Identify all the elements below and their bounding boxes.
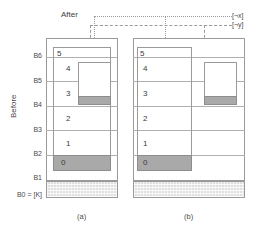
connector-neg-x-horizontal xyxy=(94,16,232,17)
figure-canvas: After [¬x] [¬y] Before B6 B5 B4 B3 B2 B1… xyxy=(0,0,263,237)
neg-y-label: [¬y] xyxy=(232,21,243,28)
panel-a-base-b0 xyxy=(46,181,118,198)
caption-b: (b) xyxy=(184,213,193,221)
connector-neg-y-horizontal xyxy=(90,25,232,26)
row-label-b5: B5 xyxy=(24,77,42,84)
neg-x-label: [¬x] xyxy=(232,12,243,19)
panel-a-block-label-2: 2 xyxy=(66,115,70,123)
panel-b-block-label-4: 4 xyxy=(143,65,147,73)
panel-a-block-label-1: 1 xyxy=(66,140,70,148)
panel-b-block-label-5: 5 xyxy=(140,50,144,58)
row-label-b2: B2 xyxy=(24,150,42,157)
panel-b-base-b0 xyxy=(133,181,245,198)
panel-a-block-label-4: 4 xyxy=(66,65,70,73)
row-label-b3: B3 xyxy=(24,126,42,133)
panel-b-block-label-0: 0 xyxy=(143,159,147,167)
panel-a-block-label-5: 5 xyxy=(57,50,61,58)
after-label: After xyxy=(61,11,78,19)
panel-b-floating-fill xyxy=(204,96,237,105)
row-label-b1: B1 xyxy=(24,174,42,181)
panel-a-block-label-0: 0 xyxy=(61,159,65,167)
panel-b-block-label-3: 3 xyxy=(143,90,147,98)
row-label-b0: B0 = [K] xyxy=(8,191,42,198)
before-axis-label: Before xyxy=(9,94,18,118)
row-label-b4: B4 xyxy=(24,101,42,108)
panel-b-block-label-1: 1 xyxy=(143,140,147,148)
panel-b-block-label-2: 2 xyxy=(143,115,147,123)
panel-a-floating-fill xyxy=(78,96,111,105)
panel-a-block-label-3: 3 xyxy=(66,90,70,98)
row-label-b6: B6 xyxy=(24,52,42,59)
caption-a: (a) xyxy=(77,213,86,221)
